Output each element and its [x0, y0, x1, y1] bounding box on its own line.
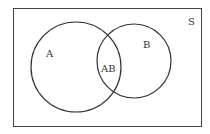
set-b-label: B	[143, 39, 150, 50]
set-a-label: A	[45, 48, 54, 59]
universe-label: S	[188, 16, 195, 27]
set-b-circle	[97, 24, 171, 98]
intersection-label: AB	[100, 63, 116, 74]
venn-diagram: S A B AB	[0, 0, 210, 134]
